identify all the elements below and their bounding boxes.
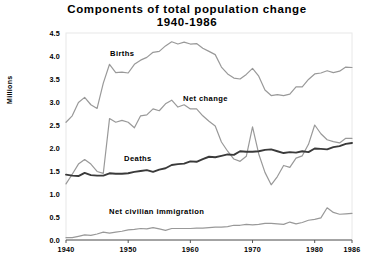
plot-area bbox=[0, 0, 374, 272]
series-label-births: Births bbox=[110, 49, 134, 58]
series-label-net-change: Net change bbox=[183, 94, 228, 103]
series-label-deaths: Deaths bbox=[124, 154, 152, 163]
chart-figure: Components of total population change 19… bbox=[0, 0, 374, 272]
series-label-net-civilian-immigration: Net civilian immigration bbox=[109, 207, 204, 216]
